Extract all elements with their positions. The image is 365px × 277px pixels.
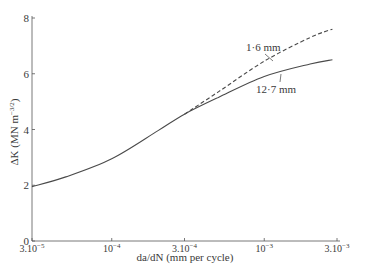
annotation-dashed: 1·6 mm xyxy=(246,41,281,61)
y-tick-label: 4 xyxy=(24,124,30,136)
curve-12-7-mm xyxy=(32,60,332,187)
curves xyxy=(32,29,332,186)
x-tick-label: 10−3 xyxy=(256,242,274,254)
leader-12-7-mm xyxy=(280,74,281,82)
x-axis-label: da/dN (mm per cycle) xyxy=(137,251,234,264)
x-tick-label: 3.10−3 xyxy=(325,242,350,254)
x-tick-label: 10−4 xyxy=(103,242,121,254)
label-12-7-mm: 12·7 mm xyxy=(256,83,296,95)
y-tick-label: 6 xyxy=(24,68,30,80)
y-ticks: 02468 xyxy=(24,12,36,247)
y-tick-label: 2 xyxy=(24,179,30,191)
label-1-6-mm: 1·6 mm xyxy=(246,41,281,53)
svg-text:ΔK (MN m−3/2): ΔK (MN m−3/2) xyxy=(8,98,21,165)
y-axis-label: ΔK (MN m−3/2) xyxy=(8,98,21,165)
crack-growth-chart: 02468 3.10−510−43.10−410−33.10−3 1·6 mm … xyxy=(0,0,365,277)
y-tick-label: 8 xyxy=(24,12,30,24)
x-tick-label: 3.10−5 xyxy=(20,242,45,254)
axes xyxy=(32,16,340,241)
